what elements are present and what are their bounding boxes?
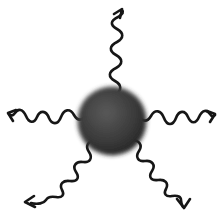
figure-canvas: A dark gray shaded sphere at the center …	[0, 0, 221, 215]
nanoparticle-emission-diagram	[0, 0, 221, 215]
nanoparticle-sphere	[78, 87, 147, 156]
sphere-highlight	[89, 97, 119, 127]
